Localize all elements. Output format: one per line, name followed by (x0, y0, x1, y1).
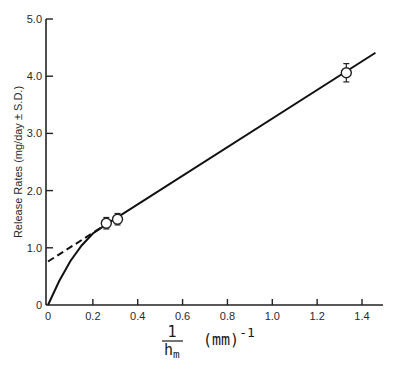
y-tick-label: 5.0 (27, 13, 42, 25)
y-axis-label: Release Rates (mg/day ± S.D.) (12, 86, 24, 238)
x-label-denominator: hm (164, 341, 180, 361)
series-line (106, 53, 375, 225)
x-tick-label: 0 (45, 310, 51, 322)
x-tick-label: 1.2 (310, 310, 325, 322)
series-line (48, 224, 106, 305)
axes (46, 19, 383, 305)
x-axis-ticks: 00.20.40.60.81.01.21.4 (45, 299, 370, 322)
y-tick-label: 0 (36, 299, 42, 311)
x-tick-label: 0.4 (130, 310, 145, 322)
x-tick-label: 1.0 (265, 310, 280, 322)
x-tick-label: 0.2 (85, 310, 100, 322)
x-tick-label: 0.6 (175, 310, 190, 322)
y-tick-label: 4.0 (27, 70, 42, 82)
data-point-marker (101, 218, 111, 228)
x-label-numerator: 1 (167, 323, 176, 341)
chart: 01.02.03.04.05.0 00.20.40.60.81.01.21.4 … (0, 0, 397, 373)
y-axis-ticks: 01.02.03.04.05.0 (27, 13, 53, 311)
y-tick-label: 1.0 (27, 242, 42, 254)
y-tick-label: 2.0 (27, 185, 42, 197)
plot-lines (48, 53, 375, 305)
x-tick-label: 0.8 (220, 310, 235, 322)
data-point-marker (341, 68, 351, 78)
x-label-unit: (mm)-1 (203, 325, 255, 349)
x-axis-label: 1 hm (mm)-1 (162, 323, 255, 361)
data-point-marker (113, 214, 123, 224)
x-tick-label: 1.4 (354, 310, 369, 322)
y-tick-label: 3.0 (27, 127, 42, 139)
